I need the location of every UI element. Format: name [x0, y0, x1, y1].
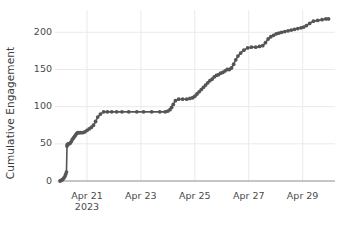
- x-axis-tick-label: Apr 27: [219, 190, 279, 201]
- data-point-marker: [92, 123, 96, 127]
- data-point-marker: [115, 110, 119, 114]
- y-axis-tick-label: 0: [22, 176, 52, 186]
- data-point-marker: [254, 45, 258, 49]
- data-point-marker: [158, 110, 162, 114]
- x-axis-tick-label-text: Apr 21: [71, 190, 103, 201]
- data-point-marker: [135, 110, 139, 114]
- y-axis-tick-marks: [55, 32, 60, 181]
- x-axis-tick-label: Apr 29: [273, 190, 333, 201]
- data-point-marker: [239, 51, 243, 55]
- x-axis-tick-label-text: Apr 23: [125, 190, 157, 201]
- data-point-marker: [327, 17, 331, 21]
- data-point-marker: [293, 27, 297, 31]
- data-point-marker: [305, 24, 309, 28]
- data-point-marker: [264, 41, 268, 45]
- data-point-marker: [171, 103, 175, 107]
- data-point-marker: [286, 29, 290, 33]
- data-point-marker: [261, 44, 265, 48]
- data-point-marker: [236, 54, 240, 58]
- data-point-marker: [96, 115, 100, 119]
- x-axis-tick-label-text: Apr 29: [287, 190, 319, 201]
- data-point-marker: [142, 110, 146, 114]
- data-point-marker: [127, 110, 131, 114]
- data-point-marker: [177, 97, 181, 101]
- y-axis-tick-label: 50: [22, 138, 52, 148]
- data-point-marker: [94, 120, 98, 124]
- x-axis-tick-label-text: Apr 27: [233, 190, 265, 201]
- data-point-marker: [99, 112, 103, 116]
- data-point-marker: [106, 110, 110, 114]
- data-point-marker: [312, 19, 316, 23]
- x-axis-tick-label: Apr 25: [165, 190, 225, 201]
- y-axis-tick-label: 150: [22, 64, 52, 74]
- data-point-marker: [185, 97, 189, 101]
- data-point-marker: [289, 28, 293, 32]
- data-point-marker: [242, 48, 246, 52]
- data-point-marker: [283, 30, 287, 34]
- data-point-marker: [234, 58, 238, 62]
- data-point-marker: [120, 110, 124, 114]
- data-point-marker: [258, 45, 262, 49]
- chart-container: Cumulative Engagement 050100150200 Apr 2…: [0, 0, 339, 226]
- data-series-markers: [58, 17, 330, 183]
- data-point-marker: [250, 45, 254, 49]
- data-point-marker: [246, 46, 250, 50]
- y-axis-tick-label: 200: [22, 27, 52, 37]
- data-point-marker: [280, 30, 284, 34]
- data-point-marker: [110, 110, 114, 114]
- data-point-marker: [102, 110, 106, 114]
- x-axis-tick-label: Apr 23: [111, 190, 171, 201]
- data-point-marker: [320, 18, 324, 22]
- data-point-marker: [150, 110, 154, 114]
- data-point-marker: [173, 99, 177, 103]
- y-axis-tick-label: 100: [22, 101, 52, 111]
- data-point-marker: [232, 62, 236, 66]
- data-point-marker: [230, 66, 234, 70]
- data-point-marker: [316, 19, 320, 23]
- x-axis-tick-label: Apr 212023: [57, 190, 117, 212]
- x-axis-tick-label-text: Apr 25: [179, 190, 211, 201]
- data-point-marker: [308, 21, 312, 25]
- y-axis-title: Cumulative Engagement: [0, 0, 20, 226]
- data-point-marker: [296, 27, 300, 31]
- horizontal-gridlines: [60, 32, 335, 144]
- data-point-marker: [181, 97, 185, 101]
- data-point-marker: [65, 170, 69, 174]
- x-axis-year-label: 2023: [57, 201, 117, 212]
- data-series-line: [60, 19, 329, 181]
